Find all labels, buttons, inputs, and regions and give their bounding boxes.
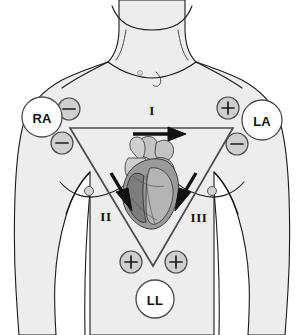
polarity-la-lead3-negative	[226, 133, 248, 155]
lead-three-label: III	[191, 210, 208, 225]
polarity-ll-lead3-positive	[165, 251, 187, 273]
right-arm-electrode: RA	[22, 97, 62, 137]
left-nipple-marker	[85, 187, 94, 196]
lead-one-label: I	[149, 103, 155, 118]
left-leg-electrode-label: LL	[147, 293, 163, 308]
left-arm-electrode-label: LA	[253, 114, 271, 129]
diagram-canvas: I II III	[0, 0, 304, 335]
arm-right-inner	[214, 190, 219, 335]
left-leg-electrode: LL	[136, 280, 174, 318]
sternal-mark	[138, 71, 143, 76]
arm-left-inner	[85, 190, 90, 335]
neck	[108, 0, 196, 78]
polarity-ra-lead2-negative	[51, 132, 73, 154]
polarity-ll-lead2-positive	[120, 251, 142, 273]
lead-two-label: II	[100, 209, 111, 224]
polarity-la-lead1-positive	[217, 97, 239, 119]
right-arm-electrode-label: RA	[32, 111, 52, 126]
einthoven-triangle-diagram: I II III	[0, 0, 304, 335]
heart-illustration	[122, 136, 178, 229]
left-arm-electrode: LA	[242, 100, 282, 140]
right-nipple-marker	[208, 187, 217, 196]
